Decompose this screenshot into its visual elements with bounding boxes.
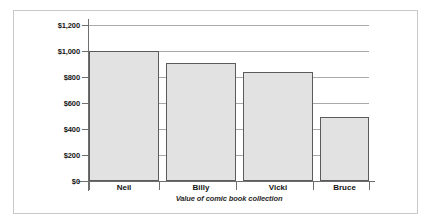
chart-frame [13, 10, 418, 214]
